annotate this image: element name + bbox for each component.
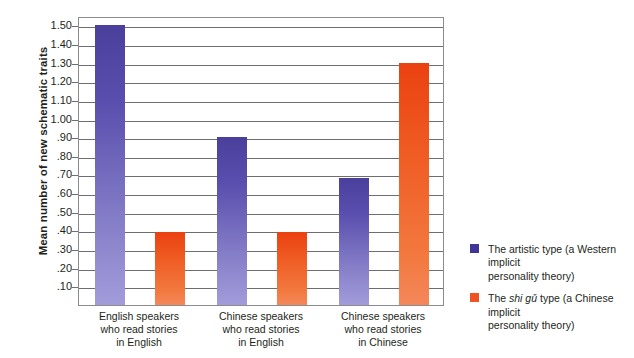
bar-artistic-group2 — [217, 137, 247, 305]
legend-item-artistic[interactable]: The artistic type (a Western implicitper… — [470, 243, 628, 283]
y-axis-tick-labels: .10.20.30.40.50.60.70.80.901.001.101.201… — [26, 17, 72, 306]
x-axis-label-line: who read stories — [322, 323, 444, 336]
legend-label: The shi gǔ type (a Chinese implicitperso… — [488, 292, 614, 331]
y-axis-tick-label: 1.00 — [28, 113, 72, 125]
x-axis-label-group3: Chinese speakerswho read storiesin Chine… — [322, 310, 444, 350]
bar-shigu-group2 — [277, 232, 307, 305]
x-axis-label-line: who read stories — [200, 323, 322, 336]
x-axis-label-line: Chinese speakers — [200, 310, 322, 323]
y-axis-tick-label: .50 — [28, 206, 72, 218]
y-axis-tick-label: 1.50 — [28, 19, 72, 31]
y-axis-tick-label: 1.40 — [28, 38, 72, 50]
y-axis-tick-label: 1.10 — [28, 94, 72, 106]
x-axis-label-line: in English — [78, 336, 200, 349]
legend-item-shigu[interactable]: The shi gǔ type (a Chinese implicitperso… — [470, 292, 628, 332]
plot-area — [78, 17, 444, 306]
bar-artistic-group3 — [339, 178, 369, 305]
y-axis-tick-label: .10 — [28, 280, 72, 292]
legend-label-italic-term: shi gǔ — [509, 292, 537, 304]
bar-artistic-group1 — [95, 25, 125, 305]
legend-swatch-artistic-icon — [470, 244, 479, 253]
x-axis-label-line: who read stories — [78, 323, 200, 336]
y-axis-tick-label: .70 — [28, 168, 72, 180]
chart-legend: The artistic type (a Western implicitper… — [470, 243, 628, 341]
x-axis-label-line: Chinese speakers — [322, 310, 444, 323]
bar-shigu-group3 — [399, 63, 429, 305]
x-axis-label-group2: Chinese speakerswho read storiesin Engli… — [200, 310, 322, 350]
bar-shigu-group1 — [155, 232, 185, 305]
y-axis-tick-label: .40 — [28, 224, 72, 236]
y-axis-tick-label: .60 — [28, 187, 72, 199]
y-axis-tick-label: .20 — [28, 262, 72, 274]
bar-chart-figure: Mean number of new schematic traits .10.… — [0, 0, 634, 358]
y-axis-tick-label: 1.30 — [28, 57, 72, 69]
y-axis-tick-label: 1.20 — [28, 75, 72, 87]
x-axis-label-line: in Chinese — [322, 336, 444, 349]
bar-group — [79, 18, 443, 305]
y-axis-tick-label: .90 — [28, 131, 72, 143]
x-axis-category-labels: English speakerswho read storiesin Engli… — [78, 310, 444, 356]
y-axis-tick-label: .80 — [28, 150, 72, 162]
legend-swatch-shigu-icon — [470, 293, 479, 302]
y-axis-tick-label: .30 — [28, 243, 72, 255]
x-axis-label-group1: English speakerswho read storiesin Engli… — [78, 310, 200, 350]
x-axis-label-line: in English — [200, 336, 322, 349]
legend-label: The artistic type (a Western implicitper… — [488, 243, 616, 282]
x-axis-label-line: English speakers — [78, 310, 200, 323]
